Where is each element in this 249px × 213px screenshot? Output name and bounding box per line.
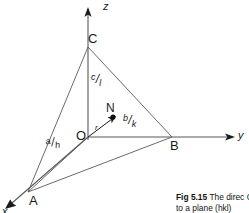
intercept-label-c-over-l: c/l [91,73,101,88]
intercept-label-a-over-h: a/h [45,135,61,151]
point-n-dot [110,114,115,119]
normal-vector-label-r: r [95,124,98,132]
vertex-label-o: O [76,129,86,142]
x-axis-label: x [2,206,8,213]
point-label-n: N [106,102,115,114]
intercept-b-denominator: k [132,119,137,129]
intercept-c-numerator: c [91,72,96,82]
y-axis-label: y [238,130,244,141]
normal-vector-r [88,114,116,137]
figure-caption: Fig 5.15 The direc O to a plane (hkl) [176,192,249,213]
intercept-c-denominator: l [99,78,101,88]
figure-caption-number: Fig 5.15 [176,192,207,202]
vertex-label-b: B [170,139,179,152]
z-axis-label: z [103,1,109,12]
y-axis-line [88,133,235,140]
figure-page: z y x C O B A N r a/h b/k c/l Fig 5.15 T… [0,0,249,213]
figure-caption-line-1: The direc [209,192,244,202]
crystal-axes-diagram [0,0,249,213]
intercept-label-b-over-k: b/k [123,114,136,129]
vertex-label-c: C [88,32,97,45]
vertex-label-a: A [29,194,38,207]
